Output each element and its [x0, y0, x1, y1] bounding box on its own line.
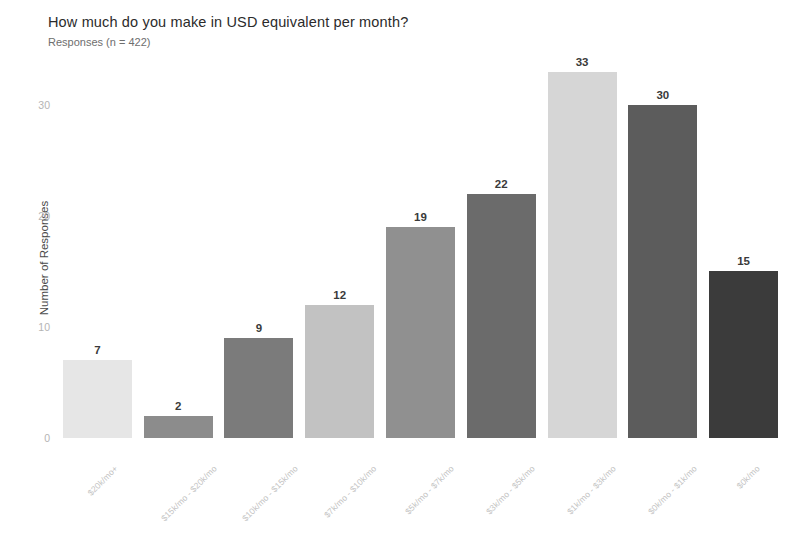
x-tick-label: $0k/mo: [734, 463, 761, 490]
x-label-slot: $0k/mo: [703, 438, 784, 542]
bar[interactable]: [63, 360, 132, 438]
x-label-slot: $0k/mo - $1k/mo: [622, 438, 703, 542]
bar-value-label: 33: [548, 56, 617, 68]
x-label-slot: $15k/mo - $20k/mo: [138, 438, 219, 542]
bar-value-label: 9: [224, 322, 293, 334]
y-tick-label: 10: [16, 321, 50, 333]
bar[interactable]: [224, 338, 293, 438]
x-tick-label: $0k/mo - $1k/mo: [646, 463, 699, 516]
page-title: How much do you make in USD equivalent p…: [48, 14, 408, 30]
x-tick-label: $10k/mo - $15k/mo: [240, 463, 300, 523]
bar-value-label: 30: [628, 89, 697, 101]
bar[interactable]: [144, 416, 213, 438]
y-axis-ticks: 0102030: [10, 0, 50, 542]
bar-value-label: 2: [144, 400, 213, 412]
x-axis-labels: $20k/mo+$15k/mo - $20k/mo$10k/mo - $15k/…: [57, 438, 784, 542]
bar[interactable]: [305, 305, 374, 438]
bar-slot: 7: [63, 55, 132, 438]
bar-value-label: 19: [386, 211, 455, 223]
bar-value-label: 7: [63, 344, 132, 356]
x-label-slot: $1k/mo - $3k/mo: [542, 438, 623, 542]
bar-slot: 19: [386, 55, 455, 438]
x-label-slot: $20k/mo+: [57, 438, 138, 542]
bar[interactable]: [628, 105, 697, 438]
chart-page: How much do you make in USD equivalent p…: [0, 0, 791, 542]
bar-value-label: 15: [709, 255, 778, 267]
x-tick-label: $20k/mo+: [86, 463, 120, 497]
bar-slot: 33: [548, 55, 617, 438]
x-tick-label: $1k/mo - $3k/mo: [565, 463, 618, 516]
x-label-slot: $10k/mo - $15k/mo: [219, 438, 300, 542]
bar[interactable]: [467, 194, 536, 438]
bar-slot: 30: [628, 55, 697, 438]
bar-value-label: 12: [305, 289, 374, 301]
x-label-slot: $7k/mo - $10k/mo: [299, 438, 380, 542]
x-tick-label: $5k/mo - $7k/mo: [404, 463, 457, 516]
x-tick-label: $15k/mo - $20k/mo: [159, 463, 219, 523]
x-tick-label: $3k/mo - $5k/mo: [484, 463, 537, 516]
bar[interactable]: [386, 227, 455, 438]
x-tick-label: $7k/mo - $10k/mo: [322, 463, 378, 519]
chart-subtitle: Responses (n = 422): [48, 36, 150, 48]
bar[interactable]: [548, 72, 617, 438]
bar-slot: 2: [144, 55, 213, 438]
bar-slot: 22: [467, 55, 536, 438]
plot-area: 729121922333015: [57, 55, 784, 438]
bar-slot: 12: [305, 55, 374, 438]
bar-slot: 15: [709, 55, 778, 438]
y-tick-label: 30: [16, 99, 50, 111]
bar-value-label: 22: [467, 178, 536, 190]
x-label-slot: $3k/mo - $5k/mo: [461, 438, 542, 542]
bar[interactable]: [709, 271, 778, 438]
y-tick-label: 20: [16, 210, 50, 222]
x-label-slot: $5k/mo - $7k/mo: [380, 438, 461, 542]
y-tick-label: 0: [16, 432, 50, 444]
bar-slot: 9: [224, 55, 293, 438]
